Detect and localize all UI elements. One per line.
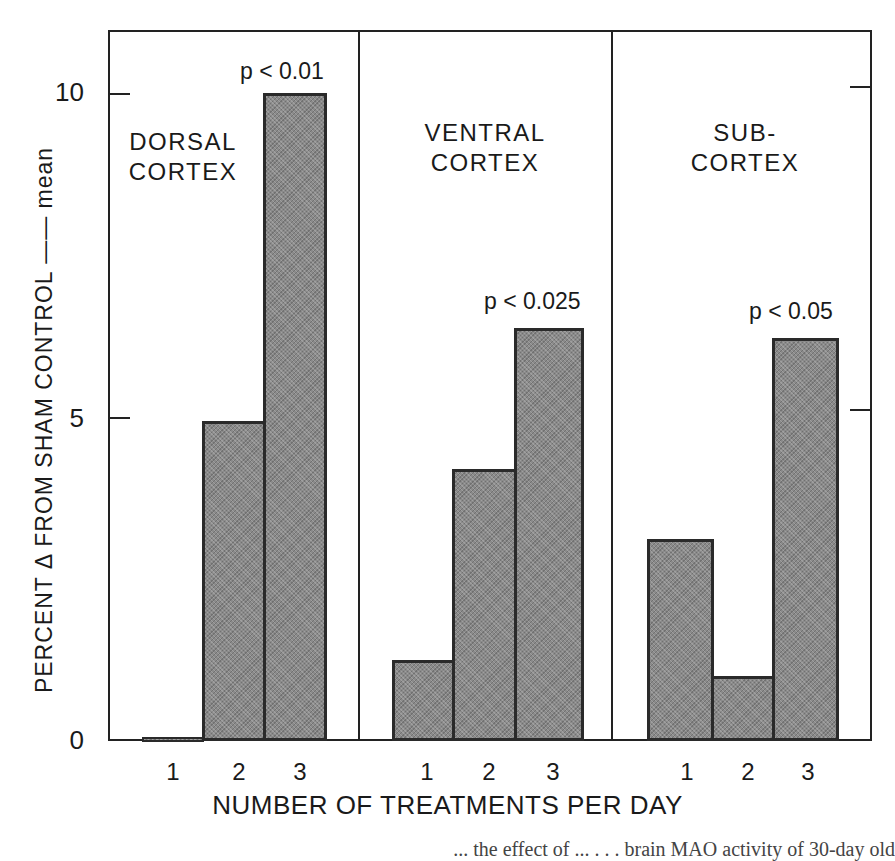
- x-tick-label: 1: [412, 758, 442, 786]
- x-tick-label: 3: [285, 758, 315, 786]
- y-tick: [850, 86, 872, 88]
- bar-subcortex-2: [711, 676, 775, 741]
- bar-dorsal-2: [202, 421, 266, 741]
- panel-title-line: CORTEX: [410, 148, 560, 178]
- x-tick-label: 3: [538, 758, 568, 786]
- p-value-dorsal: p < 0.01: [240, 58, 324, 85]
- y-tick: [850, 409, 872, 411]
- bar-ventral-3: [514, 328, 584, 741]
- bar-subcortex-3: [772, 338, 839, 741]
- panel-title-line: CORTEX: [118, 157, 248, 187]
- panel-divider: [358, 30, 360, 741]
- panel-title-line: VENTRAL: [410, 118, 560, 148]
- bar-ventral-2: [452, 469, 517, 741]
- panel-divider: [611, 30, 613, 741]
- p-value-subcortex: p < 0.05: [749, 298, 833, 325]
- x-tick-label: 3: [793, 758, 823, 786]
- x-tick-label: 1: [672, 758, 702, 786]
- panel-title-ventral: VENTRAL CORTEX: [410, 118, 560, 178]
- y-axis-label: PERCENT Δ FROM SHAM CONTROL —— mean: [31, 147, 58, 693]
- bar-ventral-1: [392, 660, 455, 741]
- y-tick: [108, 93, 130, 95]
- bar-dorsal-1: [142, 737, 204, 742]
- x-tick-label: 1: [158, 758, 188, 786]
- x-tick-label: 2: [224, 758, 254, 786]
- p-value-ventral: p < 0.025: [484, 288, 581, 315]
- panel-title-line: CORTEX: [680, 148, 810, 178]
- panel-title-line: DORSAL: [118, 127, 248, 157]
- x-tick-label: 2: [474, 758, 504, 786]
- panel-title-subcortex: SUB- CORTEX: [680, 118, 810, 178]
- y-tick-label: 10: [44, 77, 84, 108]
- x-axis-label: NUMBER OF TREATMENTS PER DAY: [0, 790, 895, 821]
- bar-dorsal-3: [263, 93, 327, 741]
- y-tick-label: 0: [44, 725, 84, 756]
- panel-title-line: SUB-: [680, 118, 810, 148]
- figure-caption-fragment: ... the effect of ... . . . brain MAO ac…: [0, 838, 895, 861]
- x-tick-label: 2: [733, 758, 763, 786]
- y-tick: [108, 417, 130, 419]
- bar-subcortex-1: [647, 539, 714, 741]
- panel-title-dorsal: DORSAL CORTEX: [118, 127, 248, 187]
